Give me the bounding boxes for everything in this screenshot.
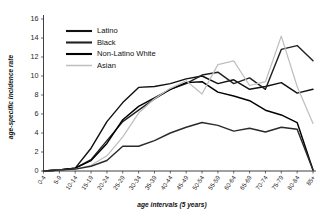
y-tick-label-0: 0 [35, 166, 39, 175]
y-tick-label-14: 14 [31, 33, 39, 42]
x-tick-label-55-59: 55-59 [206, 174, 221, 191]
legend-label-latino: Latino [97, 26, 118, 35]
x-tick-label-20-24: 20-24 [95, 174, 110, 191]
legend-label-asian: Asian [97, 61, 116, 70]
x-tick-label-10-14: 10-14 [64, 174, 79, 191]
series-line-latino [44, 76, 314, 171]
axes-group [41, 15, 316, 174]
legend-label-non-latino-white: Non-Latino White [97, 49, 156, 58]
y-tick-label-12: 12 [31, 52, 39, 61]
legend-label-black: Black [97, 38, 116, 47]
x-tick-label-40-44: 40-44 [159, 174, 174, 191]
x-axis-title: age intervals (5 years) [137, 201, 206, 209]
y-tick-label-10: 10 [31, 71, 39, 80]
line-chart: LatinoBlackNon-Latino WhiteAsian 0246810… [0, 0, 322, 219]
x-tick-label-25-29: 25-29 [111, 174, 126, 191]
chart-figure: LatinoBlackNon-Latino WhiteAsian 0246810… [0, 0, 322, 219]
y-axis-title: age-specific incidence rate [7, 55, 15, 140]
x-tick-label-50-54: 50-54 [191, 174, 206, 191]
y-tick-label-2: 2 [35, 147, 39, 156]
y-tick-label-8: 8 [35, 90, 39, 99]
series-line-black [44, 46, 314, 171]
chart-legend: LatinoBlackNon-Latino WhiteAsian [66, 26, 156, 70]
y-tick-label-6: 6 [35, 109, 39, 118]
x-tick-label-70-74: 70-74 [254, 174, 269, 191]
x-tick-label-30-34: 30-34 [127, 174, 142, 191]
x-tick-label-45-49: 45-49 [175, 174, 190, 191]
series-line-asian [44, 36, 314, 171]
x-tick-label-80-84: 80-84 [286, 174, 301, 191]
series-group [44, 36, 314, 171]
x-tick-label-75-79: 75-79 [270, 174, 285, 191]
y-tick-label-4: 4 [35, 128, 39, 137]
x-tick-label-60-64: 60-64 [222, 174, 237, 191]
x-tick-label-65-69: 65-69 [238, 174, 253, 191]
y-tick-label-16: 16 [31, 14, 39, 23]
x-tick-label-35-39: 35-39 [143, 174, 158, 191]
x-tick-label-15-19: 15-19 [80, 174, 95, 191]
x-tick-label-85+: 85+ [305, 174, 317, 187]
x-tick-label-5-9: 5-9 [52, 174, 63, 186]
